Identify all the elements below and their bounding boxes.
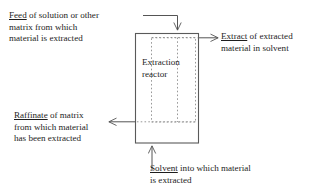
- extract-label-line2: material in solvent: [221, 43, 293, 55]
- feed-label-line2: matrix from which: [9, 22, 99, 34]
- reactor-caption-line1: Extraction: [142, 57, 180, 69]
- raffinate-term: Raffinate: [14, 110, 48, 120]
- feed-label-line1: Feed of solution or other: [9, 10, 99, 22]
- solvent-line1-rest: into which material: [178, 163, 251, 173]
- raffinate-line1-rest: of matrix: [48, 110, 84, 120]
- feed-term: Feed: [9, 10, 27, 20]
- solvent-label-line2: is extracted: [150, 175, 251, 187]
- feed-stream-arrow: [143, 16, 178, 31]
- raffinate-stream-label: Raffinate of matrix from which material …: [14, 110, 88, 145]
- reactor-caption: Extraction reactor: [142, 57, 180, 80]
- raffinate-label-line2: from which material: [14, 122, 88, 134]
- solvent-label-line1: Solvent into which material: [150, 163, 251, 175]
- extraction-reactor-diagram: Extraction reactor Feed of solution or o…: [0, 0, 314, 193]
- raffinate-label-line1: Raffinate of matrix: [14, 110, 88, 122]
- feed-line1-rest: of solution or other: [27, 10, 99, 20]
- reactor-vessel-outline: [136, 34, 199, 144]
- solvent-stream-label: Solvent into which material is extracted: [150, 163, 251, 186]
- feed-stream-label: Feed of solution or other matrix from wh…: [9, 10, 99, 45]
- feed-label-line3: material is extracted: [9, 33, 99, 45]
- extract-line1-rest: of extracted: [247, 31, 292, 41]
- extract-label-line1: Extract of extracted: [221, 31, 293, 43]
- raffinate-label-line3: has been extracted: [14, 133, 88, 145]
- extract-term: Extract: [221, 31, 247, 41]
- reactor-caption-line2: reactor: [142, 69, 180, 81]
- extract-stream-label: Extract of extracted material in solvent: [221, 31, 293, 54]
- solvent-term: Solvent: [150, 163, 178, 173]
